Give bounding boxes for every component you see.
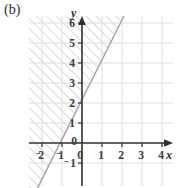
- x-axis-label: x: [165, 148, 172, 162]
- y-tick-minus--1: ⁻: [64, 158, 69, 168]
- inequality-shaded-region: [29, 16, 124, 188]
- x-tick-label-3: 3: [138, 149, 144, 161]
- y-tick-label-1: 1: [69, 117, 75, 129]
- x-tick-label-1: 1: [98, 149, 104, 161]
- x-tick-label-2: 2: [118, 149, 124, 161]
- y-tick-label-0: 0: [71, 135, 77, 147]
- y-axis-label: y: [69, 6, 77, 20]
- y-tick-label--1: 1: [70, 157, 76, 169]
- x-axis-tick-labels: ⁻ 2 ⁻ 1 0 1 2 3 4: [36, 149, 164, 161]
- x-tick-label-4: 4: [158, 149, 164, 161]
- y-tick-label-2: 2: [69, 97, 75, 109]
- y-tick-label-5: 5: [69, 37, 75, 49]
- coordinate-plane: ⁻ 2 ⁻ 1 0 1 2 3 4 6 5 4 3 2 1 0 ⁻ 1 x y: [0, 0, 183, 188]
- y-tick-label-3: 3: [69, 77, 75, 89]
- x-axis-arrowhead: [164, 139, 173, 147]
- graph-figure: (b): [0, 0, 183, 188]
- x-tick-label--2: 2: [38, 149, 44, 161]
- x-tick-label-0: 0: [77, 149, 83, 161]
- y-tick-label-4: 4: [69, 57, 75, 69]
